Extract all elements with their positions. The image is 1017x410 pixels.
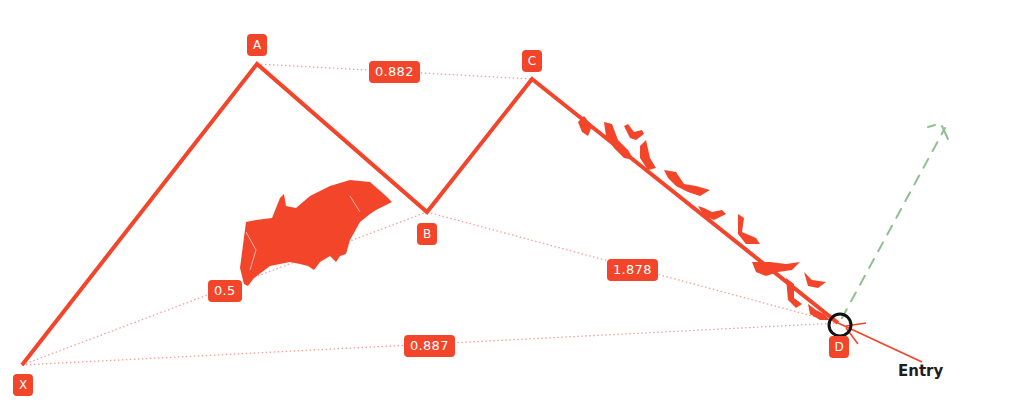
target-arrow xyxy=(842,128,945,318)
ratio-label-ac: 0.882 xyxy=(369,61,420,83)
point-label-c: C xyxy=(522,50,542,72)
point-label-x: X xyxy=(13,374,33,396)
large-bat-icon xyxy=(240,180,392,286)
pattern-canvas xyxy=(0,0,1017,410)
point-label-b: B xyxy=(417,223,437,245)
bat-pattern-diagram: A C B D X 0.882 0.5 1.878 0.887 Entry xyxy=(0,0,1017,410)
entry-label: Entry xyxy=(898,362,943,380)
ratio-label-xb: 0.5 xyxy=(208,280,242,302)
ratio-label-xd: 0.887 xyxy=(404,335,455,357)
ratio-label-bd: 1.878 xyxy=(607,259,658,281)
point-label-d: D xyxy=(829,336,849,358)
point-label-a: A xyxy=(247,34,267,56)
